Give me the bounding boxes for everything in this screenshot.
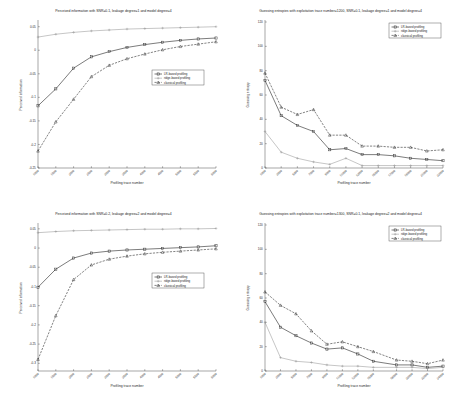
svg-text:5500: 5500 <box>192 372 200 380</box>
plot-area-bottom-left: -0.3-0.25-0.2-0.15-0.1-0.0500.0510001500… <box>0 203 227 406</box>
svg-text:0: 0 <box>34 48 36 52</box>
svg-text:9000: 9000 <box>321 372 329 380</box>
svg-text:15000: 15000 <box>366 372 375 381</box>
svg-text:6000: 6000 <box>210 372 218 380</box>
svg-text:0.05: 0.05 <box>30 227 36 231</box>
svg-text:-0.15: -0.15 <box>29 304 36 308</box>
series-0 <box>37 25 218 152</box>
svg-text:3000: 3000 <box>275 372 283 380</box>
svg-text:2500: 2500 <box>85 169 93 177</box>
svg-text:20000: 20000 <box>405 372 414 381</box>
legend-2: LR-based profilingridge-based profilingc… <box>152 273 204 288</box>
svg-text:0.05: 0.05 <box>30 25 36 29</box>
svg-text:-0.05: -0.05 <box>29 72 36 76</box>
svg-text:11000: 11000 <box>335 372 344 381</box>
legend-1: LR-based profilingridge-based profilingc… <box>389 23 441 38</box>
svg-text:4500: 4500 <box>157 372 165 380</box>
chart-svg-1: 0204060801001201000300050007000900011000… <box>227 0 454 203</box>
legend-3: LR-based profilingridge-based profilingc… <box>389 226 441 241</box>
svg-text:20: 20 <box>259 345 263 349</box>
svg-text:-0.15: -0.15 <box>29 119 36 123</box>
chart-svg-3: 0204060801001201000300050007000900011000… <box>227 203 454 406</box>
svg-text:23000: 23000 <box>436 169 445 178</box>
svg-text:4500: 4500 <box>157 169 165 177</box>
svg-text:classical profiling: classical profiling <box>164 284 186 288</box>
svg-text:13000: 13000 <box>351 372 360 381</box>
svg-text:classical profiling: classical profiling <box>164 81 186 85</box>
axes-0: -0.25-0.2-0.15-0.1-0.0500.05100015002000… <box>29 20 218 176</box>
axes-3: 0204060801001201000300050007000900011000… <box>258 223 445 381</box>
svg-text:24000: 24000 <box>436 372 445 381</box>
svg-text:5000: 5000 <box>291 169 299 177</box>
svg-text:80: 80 <box>259 272 263 276</box>
panel-bottom-right: Guessing entropies with exploitation tra… <box>227 203 454 406</box>
svg-text:60: 60 <box>259 93 263 97</box>
svg-text:18000: 18000 <box>389 372 398 381</box>
svg-text:3500: 3500 <box>121 372 129 380</box>
svg-text:60: 60 <box>259 296 263 300</box>
svg-text:Profiling trace number: Profiling trace number <box>110 384 144 388</box>
svg-text:3000: 3000 <box>275 169 283 177</box>
svg-text:100: 100 <box>258 44 263 48</box>
axes-2: -0.3-0.25-0.2-0.15-0.1-0.0500.0510001500… <box>29 223 218 379</box>
svg-text:-0.1: -0.1 <box>31 285 37 289</box>
svg-text:120: 120 <box>258 223 263 227</box>
svg-text:5000: 5000 <box>174 169 182 177</box>
series-3 <box>264 291 445 370</box>
svg-text:Perceived information: Perceived information <box>19 79 23 110</box>
svg-text:100: 100 <box>258 247 263 251</box>
svg-text:4000: 4000 <box>139 169 147 177</box>
svg-text:11000: 11000 <box>339 169 348 178</box>
figure-grid: Perceived information with SNR=0.1, leak… <box>0 0 454 406</box>
svg-text:3500: 3500 <box>121 169 129 177</box>
legend-0: LR-based profilingridge-based profilingc… <box>152 70 204 85</box>
svg-text:5000: 5000 <box>174 372 182 380</box>
panel-top-right: Guessing entropies with exploitation tra… <box>227 0 454 203</box>
svg-text:40: 40 <box>259 320 263 324</box>
panel-bottom-left: Perceived information with SNR=0.2, leak… <box>0 203 227 406</box>
svg-text:19000: 19000 <box>403 169 412 178</box>
svg-text:17000: 17000 <box>387 169 396 178</box>
svg-text:Profiling trace number: Profiling trace number <box>337 384 371 388</box>
svg-text:Profiling trace number: Profiling trace number <box>110 181 144 185</box>
svg-text:Guessing entropy: Guessing entropy <box>246 82 250 107</box>
svg-text:2000: 2000 <box>68 372 76 380</box>
svg-text:4000: 4000 <box>139 372 147 380</box>
svg-text:2500: 2500 <box>85 372 93 380</box>
svg-text:1500: 1500 <box>50 372 58 380</box>
svg-text:21000: 21000 <box>420 169 429 178</box>
plot-area-bottom-right: 0204060801001201000300050007000900011000… <box>227 203 454 406</box>
svg-text:9000: 9000 <box>324 169 332 177</box>
svg-text:7000: 7000 <box>305 372 313 380</box>
series-1 <box>264 72 445 167</box>
svg-text:1500: 1500 <box>50 169 58 177</box>
svg-text:6000: 6000 <box>210 169 218 177</box>
svg-text:15000: 15000 <box>371 169 380 178</box>
plot-area-top-right: 0204060801001201000300050007000900011000… <box>227 0 454 203</box>
svg-text:3000: 3000 <box>103 169 111 177</box>
svg-text:Guessing entropy: Guessing entropy <box>246 285 250 310</box>
svg-text:13000: 13000 <box>355 169 364 178</box>
svg-text:5500: 5500 <box>192 169 200 177</box>
svg-text:classical profiling: classical profiling <box>401 237 423 241</box>
svg-text:2000: 2000 <box>68 169 76 177</box>
svg-text:Profiling trace number: Profiling trace number <box>337 181 371 185</box>
svg-text:3000: 3000 <box>103 372 111 380</box>
svg-text:80: 80 <box>259 69 263 73</box>
svg-text:-0.2: -0.2 <box>31 323 37 327</box>
svg-text:1000: 1000 <box>32 372 40 380</box>
svg-text:-0.3: -0.3 <box>31 361 37 365</box>
svg-text:classical profiling: classical profiling <box>401 34 423 38</box>
series-2 <box>37 227 218 360</box>
plot-area-top-left: -0.25-0.2-0.15-0.1-0.0500.05100015002000… <box>0 0 227 203</box>
svg-text:-0.1: -0.1 <box>31 95 37 99</box>
svg-text:7000: 7000 <box>308 169 316 177</box>
panel-top-left: Perceived information with SNR=0.1, leak… <box>0 0 227 203</box>
svg-text:120: 120 <box>258 20 263 24</box>
svg-text:0: 0 <box>34 246 36 250</box>
svg-text:Perceived information: Perceived information <box>19 282 23 313</box>
svg-text:22000: 22000 <box>420 372 429 381</box>
svg-text:-0.2: -0.2 <box>31 143 37 147</box>
chart-svg-2: -0.3-0.25-0.2-0.15-0.1-0.0500.0510001500… <box>0 203 227 406</box>
svg-text:-0.05: -0.05 <box>29 265 36 269</box>
